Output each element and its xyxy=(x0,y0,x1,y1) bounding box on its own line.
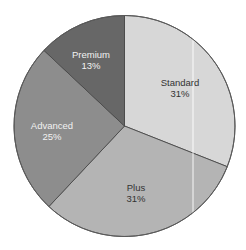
slice-label-plus: Plus 31% xyxy=(126,182,146,204)
slice-percent: 13% xyxy=(81,60,101,71)
slice-name: Advanced xyxy=(31,120,73,131)
slice-name: Premium xyxy=(72,49,110,60)
pie-chart: Standard 31% Plus 31% Advanced 25% Premi… xyxy=(0,0,246,250)
slice-name: Standard xyxy=(161,77,200,88)
slice-percent: 31% xyxy=(170,88,190,99)
slice-percent: 25% xyxy=(42,131,62,142)
pie-chart-svg: Standard 31% Plus 31% Advanced 25% Premi… xyxy=(0,0,246,250)
slice-percent: 31% xyxy=(126,193,146,204)
slice-name: Plus xyxy=(127,182,146,193)
